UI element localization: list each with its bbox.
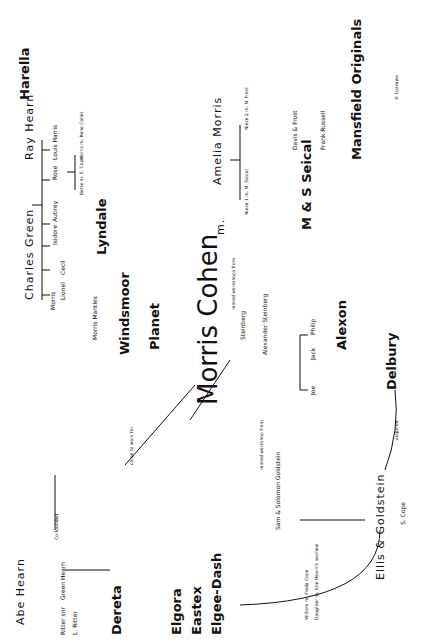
green-hearn: Green Hearn bbox=[60, 562, 66, 600]
child-aubrey: Aubrey bbox=[52, 201, 58, 222]
goldstein-child-2: Daughter m. Abe Hearn's nephew bbox=[315, 544, 320, 620]
ritter-snr: Ritter snr bbox=[60, 607, 66, 635]
cofounded: Co-founded bbox=[55, 514, 60, 540]
morris-mantles: Morris Mantles bbox=[92, 296, 98, 340]
alexander-steinberg: Alexander Steinberg bbox=[262, 294, 268, 355]
rented-workshop-from: rented workshop from bbox=[260, 420, 265, 470]
delbury: Delbury bbox=[385, 332, 398, 390]
joe: Joe bbox=[310, 386, 316, 395]
elgora: Elgora bbox=[170, 588, 183, 635]
abe-hearn: Abe Hearn bbox=[15, 558, 26, 625]
frank-russell: Frank Russell bbox=[320, 111, 326, 150]
child-cecil: Cecil bbox=[60, 260, 66, 275]
philip: Philip bbox=[310, 319, 316, 335]
niece-1: Niece 1 m. M. Seical bbox=[245, 169, 250, 215]
child-isidore: Isidore bbox=[52, 225, 58, 245]
copyright: © Lozzawa bbox=[395, 75, 400, 100]
dereta: Dereta bbox=[110, 585, 123, 635]
goldstein-child-1: William m. Freda Cope bbox=[305, 569, 310, 620]
bette-cope: Bette m. S. Cope bbox=[80, 157, 85, 195]
goldstein: Sam & Solomon Goldstein bbox=[275, 452, 281, 530]
came-to-work-for: came to work for bbox=[130, 427, 135, 465]
harella: Harella bbox=[18, 47, 31, 100]
amelia-morris: Amelia Morris bbox=[212, 97, 223, 185]
child-morris: Morris bbox=[50, 292, 56, 310]
acquired: acquired bbox=[395, 420, 400, 440]
ray-hearn: Ray Hearn bbox=[24, 94, 35, 160]
planet: Planet bbox=[148, 303, 161, 350]
spouse-marker: m. bbox=[215, 219, 226, 235]
elgee-dash: Elgee-Dash bbox=[210, 553, 223, 635]
ms-seical: M & S Seical bbox=[300, 139, 313, 230]
eastex: Eastex bbox=[190, 586, 203, 635]
morris-cohen: Morris Cohen bbox=[195, 234, 221, 405]
jack: Jack bbox=[310, 348, 316, 360]
child-lionel: Lionel bbox=[60, 282, 66, 300]
charles-green: Charles Green bbox=[24, 209, 35, 300]
louis-harris: Louis Harris bbox=[52, 125, 58, 160]
mansfield-originals: Mansfield Originals bbox=[350, 19, 363, 160]
child-rose: Rose bbox=[52, 166, 58, 180]
alexon: Alexon bbox=[335, 300, 348, 350]
l-ritter: L. Ritter bbox=[72, 611, 78, 635]
niece-2: Niece 2 m. N. Frost bbox=[245, 87, 250, 130]
davis-frost: Davis & Frost bbox=[292, 110, 298, 150]
ellis-goldstein: Ellis & Goldstein bbox=[375, 473, 386, 580]
s-cope: S. Cope bbox=[400, 502, 406, 525]
lyndale: Lyndale bbox=[95, 199, 108, 255]
rented-workshops-note: rented workshops from bbox=[232, 258, 237, 310]
steinberg: Steinberg bbox=[240, 311, 246, 340]
morris-collet: Morris m. Rene Collet bbox=[80, 112, 85, 160]
windsmoor: Windsmoor bbox=[118, 272, 131, 355]
